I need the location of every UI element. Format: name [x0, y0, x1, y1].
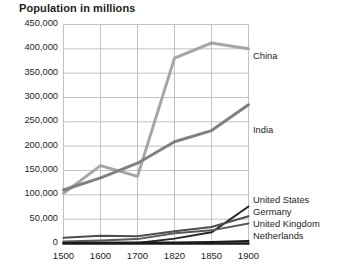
series-label-china: China [253, 50, 278, 61]
y-axis-tick-label: 150,000 [0, 164, 58, 174]
y-axis-tick-label: 450,000 [0, 18, 58, 28]
y-axis-tick-label: 0 [0, 237, 58, 247]
series-label-united-kingdom: United Kingdom [253, 218, 320, 229]
y-axis-tick-label: 50,000 [0, 213, 58, 223]
series-label-germany: Germany [253, 206, 292, 217]
grid-lines [64, 25, 249, 244]
population-line-chart: Population in millions 050,000100,000150… [0, 0, 341, 272]
y-axis-tick-label: 400,000 [0, 42, 58, 52]
y-axis-tick-label: 250,000 [0, 115, 58, 125]
y-axis-tick-label: 350,000 [0, 67, 58, 77]
y-axis-tick-label: 200,000 [0, 140, 58, 150]
x-axis-tick-label: 1900 [227, 250, 271, 261]
series-label-united-states: United States [253, 194, 309, 205]
y-axis-tick-label: 100,000 [0, 188, 58, 198]
y-axis-tick-label: 300,000 [0, 91, 58, 101]
series-label-netherlands: Netherlands [253, 230, 304, 241]
series-label-india: India [253, 124, 273, 135]
